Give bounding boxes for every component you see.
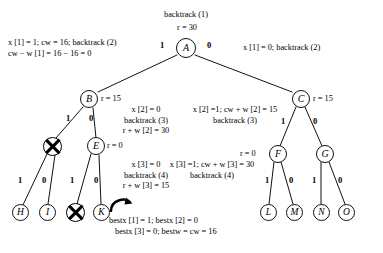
tree-node-j-pruned[interactable] (66, 203, 85, 222)
tree-node-k-label: K (98, 208, 104, 218)
tree-node-g-label: G (321, 149, 328, 159)
tree-node-m[interactable]: M (286, 204, 303, 221)
edge-label-g-left: 1 (312, 176, 316, 185)
annotation-best-solution-line1: bestx [1] = 1; bestx [2] = 0 (109, 216, 217, 227)
edge-label-d-left: 1 (18, 176, 22, 185)
annotation-e-children-line3: r + w [3] = 15 (108, 181, 184, 192)
tree-node-e-label: E (93, 141, 99, 151)
tree-node-c-label: C (298, 94, 305, 104)
edge-e-k (99, 155, 101, 204)
tree-node-m-label: M (291, 208, 299, 218)
tree-node-f[interactable]: F (269, 145, 287, 163)
edge-label-e-right: 0 (94, 176, 98, 185)
annotation-f-children: x [3] =1; cw + w [3] = 30 backtrack (4) (160, 160, 264, 181)
annotation-left-branch-line2: cw − w [1] = 16 − 16 = 0 (8, 49, 155, 60)
tree-node-k[interactable]: K (93, 204, 110, 221)
edge-b-e (93, 108, 96, 138)
node-a-r-label: r = 30 (167, 24, 207, 32)
tree-node-l[interactable]: L (260, 204, 277, 221)
tree-node-h-label: H (17, 208, 24, 218)
tree-node-n[interactable]: N (313, 204, 330, 221)
edge-g-o (329, 162, 345, 204)
tree-node-e[interactable]: E (87, 137, 105, 155)
annotation-best-solution-line2: bestx [3] = 0; bestw = cw = 16 (109, 227, 217, 238)
tree-node-i-label: I (46, 208, 49, 218)
tree-node-n-label: N (318, 208, 324, 218)
edge-label-b-right: 0 (89, 114, 93, 123)
annotation-b-children-line2: backtrack (3) (104, 116, 188, 127)
tree-node-g[interactable]: G (316, 145, 334, 163)
edge-a-c (195, 55, 292, 92)
node-b-r-label: r = 15 (101, 95, 121, 103)
annotation-best-solution: bestx [1] = 1; bestx [2] = 0 bestx [3] =… (109, 216, 217, 237)
tree-node-b-label: B (86, 94, 92, 104)
edge-f-l (269, 162, 274, 204)
tree-node-a-label: A (183, 43, 189, 53)
edge-label-d-right: 0 (42, 176, 46, 185)
edge-label-e-left: 1 (70, 176, 74, 185)
tree-node-c[interactable]: C (292, 90, 310, 108)
edge-c-g (305, 107, 322, 146)
annotation-c-children-line1: x [2] =1; cw + w [2] = 15 (183, 105, 287, 116)
annotation-right-branch-line1: x [1] = 0; backtrack (2) (243, 43, 320, 54)
edge-label-b-left: 1 (66, 114, 70, 123)
annotation-left-branch-line1: x [1] = 1; cw = 16; backtrack (2) (8, 38, 155, 49)
annotation-left-branch: x [1] = 1; cw = 16; backtrack (2) cw − w… (8, 38, 155, 59)
tree-node-i[interactable]: I (39, 204, 56, 221)
edge-label-a-right: 0 (207, 41, 211, 50)
annotation-c-children-line2: backtrack (3) (183, 116, 287, 127)
node-e-r-label: r = 0 (107, 142, 123, 150)
edge-label-c-right: 0 (313, 117, 317, 126)
edge-label-a-left: 1 (160, 41, 164, 50)
annotation-root-backtrack: backtrack (1) (146, 10, 226, 21)
tree-node-o[interactable]: O (338, 204, 355, 221)
curved-arrow-icon (109, 195, 135, 212)
tree-node-l-label: L (266, 208, 271, 218)
edge-e-j (77, 154, 91, 204)
tree-node-a[interactable]: A (176, 38, 196, 58)
edge-a-b (98, 55, 177, 92)
tree-node-o-label: O (343, 208, 350, 218)
edge-label-c-left: 1 (281, 117, 285, 126)
annotation-b-children: x [2] = 0 backtrack (3) r + w [2] = 30 (104, 105, 188, 137)
node-c-r-label: r = 15 (313, 95, 333, 103)
edge-label-f-left: 1 (265, 176, 269, 185)
annotation-f-children-line2: backtrack (4) (160, 171, 264, 182)
edge-d-i (48, 155, 55, 204)
annotation-b-children-line3: r + w [2] = 30 (104, 126, 188, 137)
tree-node-d-pruned[interactable] (43, 137, 62, 156)
tree-node-f-label: F (275, 149, 281, 159)
annotation-b-children-line1: x [2] = 0 (104, 105, 188, 116)
knapsack-backtracking-tree-figure: A B C E F G H I K L M N O r = 30 r = 15 (0, 0, 383, 253)
annotation-c-children: x [2] =1; cw + w [2] = 15 backtrack (3) (183, 105, 287, 126)
tree-node-h[interactable]: H (12, 204, 29, 221)
edge-label-g-right: 0 (338, 176, 342, 185)
annotation-right-branch: x [1] = 0; backtrack (2) (243, 43, 320, 54)
tree-node-b[interactable]: B (80, 90, 98, 108)
node-f-r-label: r = 0 (240, 150, 256, 158)
annotation-f-children-line1: x [3] =1; cw + w [3] = 30 (160, 160, 264, 171)
edge-label-f-right: 0 (289, 176, 293, 185)
